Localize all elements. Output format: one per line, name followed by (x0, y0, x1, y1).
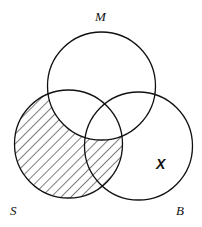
label-s: S (10, 203, 17, 218)
label-m: M (94, 9, 107, 24)
shaded-region-s-not-m (0, 0, 202, 227)
x-marker: X (155, 156, 167, 172)
venn-diagram: M S B X (0, 0, 202, 227)
label-b: B (176, 203, 184, 218)
